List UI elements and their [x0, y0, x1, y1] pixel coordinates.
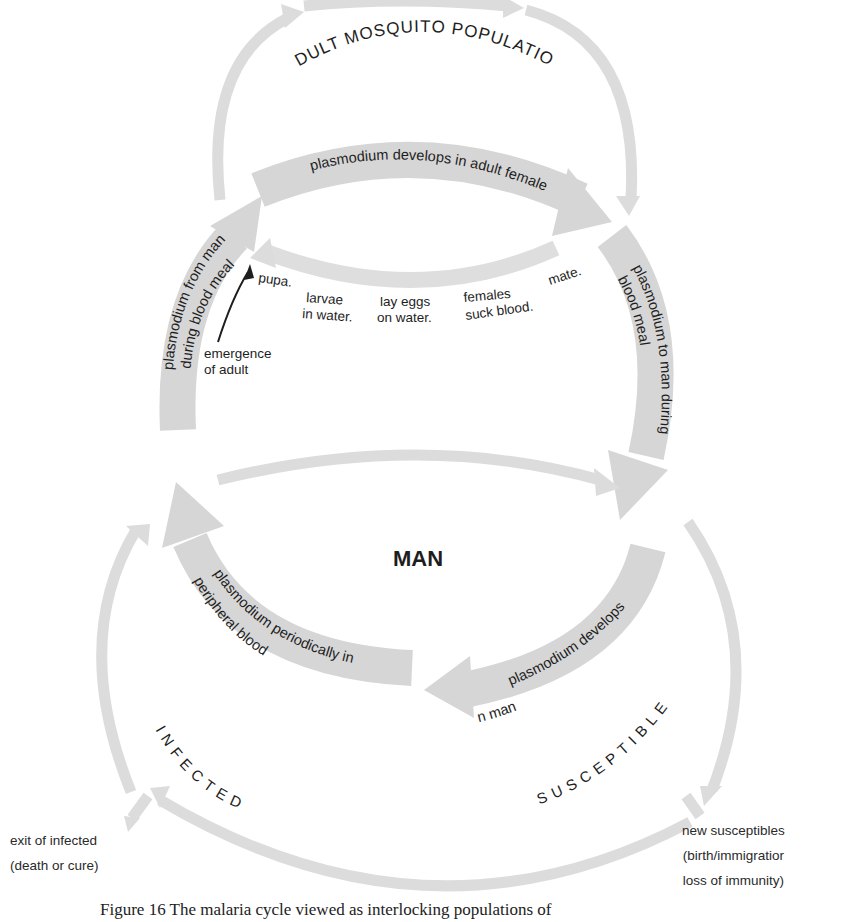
- band-develops-in-man: [424, 548, 648, 718]
- exit-of-infected-note: exit of infected (death or cure): [10, 828, 99, 878]
- new-susceptibles-line1: new susceptibles: [682, 818, 785, 843]
- exit-note-line1: exit of infected: [10, 828, 99, 853]
- stage-pupa: pupa.: [258, 270, 294, 290]
- stage-eggs-line2: on water.: [377, 310, 432, 325]
- mosquito-population-label: ADULT MOSQUITO POPULATION: [0, 0, 557, 70]
- figure-caption: Figure 16 The malaria cycle viewed as in…: [100, 900, 800, 920]
- malaria-cycle-diagram: ADULT MOSQUITO POPULATION plasmodium dev…: [0, 0, 843, 922]
- mosquito-life-cycle-arrow: [250, 238, 556, 280]
- band-develops-in-female: [258, 160, 612, 236]
- stage-mate: mate.: [546, 263, 583, 288]
- new-susceptibles-line3: loss of immunity): [682, 868, 785, 893]
- stage-larvae-line2: in water.: [302, 306, 353, 324]
- man-label: MAN: [393, 546, 443, 571]
- new-susceptibles-line2: (birth/immigratior: [682, 843, 785, 868]
- man-cycle-arrow: [218, 455, 620, 496]
- susceptible-label: SUSCEPTIBLE: [534, 694, 674, 807]
- exit-note-line2: (death or cure): [10, 853, 99, 878]
- emergence-label-line2: of adult: [204, 362, 249, 377]
- new-susceptibles-note: new susceptibles (birth/immigratior loss…: [682, 818, 785, 893]
- stage-eggs-line1: lay eggs: [380, 294, 431, 309]
- emergence-label-line1: emergence: [204, 346, 272, 361]
- stage-larvae-line1: larvae: [306, 290, 344, 308]
